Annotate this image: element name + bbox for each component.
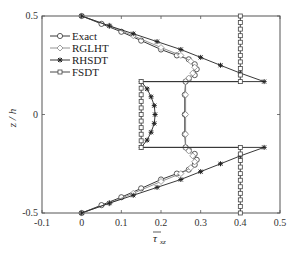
chart: -0.100.10.20.30.40.5 0.50-0.5 ExactRGLHT…	[0, 0, 294, 258]
x-tick-label: 0	[79, 217, 84, 228]
x-tick-label: -0.1	[34, 217, 50, 228]
svg-text:FSDT: FSDT	[72, 66, 99, 78]
svg-text:Exact: Exact	[72, 30, 97, 42]
x-axis-title: τ xz	[153, 232, 166, 246]
svg-text:RGLHT: RGLHT	[72, 42, 109, 54]
svg-text:τ: τ	[153, 232, 158, 244]
y-axis-title: z / h	[6, 108, 18, 128]
x-tick-label: 0.5	[274, 217, 287, 228]
y-tick-label: 0.5	[26, 10, 39, 21]
y-tick-label: 0	[33, 109, 38, 120]
svg-text:RHSDT: RHSDT	[72, 54, 108, 66]
x-tick-label: 0.1	[115, 217, 128, 228]
x-tick-label: 0.2	[155, 217, 168, 228]
svg-text:xz: xz	[159, 238, 166, 246]
y-tick-label: -0.5	[22, 207, 38, 218]
x-tick-label: 0.3	[194, 217, 207, 228]
x-tick-label: 0.4	[234, 217, 247, 228]
